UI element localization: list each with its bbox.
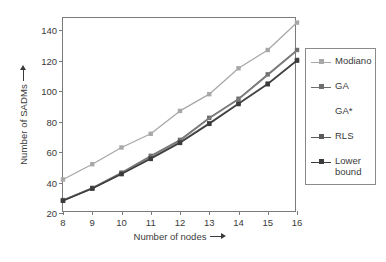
data-point-marker: [207, 122, 211, 126]
y-tick-label: 40: [46, 177, 57, 188]
legend-item-label: GA: [335, 80, 349, 91]
data-point-marker: [295, 20, 299, 24]
legend-item-ga[interactable]: GA: [306, 80, 375, 105]
y-tick-label: 20: [46, 208, 57, 219]
legend-item-label: Modiano: [335, 55, 371, 66]
x-tick-mark: [297, 211, 298, 215]
data-point-marker: [178, 109, 182, 113]
legend-key-icon: [311, 156, 331, 168]
data-point-marker: [295, 58, 299, 62]
x-tick-label: 9: [90, 217, 95, 228]
series-line: [63, 51, 297, 200]
x-tick-label: 10: [116, 217, 127, 228]
y-axis-title: Number of SADMs: [14, 40, 32, 190]
data-point-marker: [90, 162, 94, 166]
chart-figure: Number of SADMs 20406080100120140 891011…: [0, 0, 386, 262]
data-point-marker: [119, 145, 123, 149]
legend-item-label: Lowerbound: [335, 155, 361, 177]
data-point-marker: [90, 186, 94, 190]
data-point-marker: [207, 92, 211, 96]
legend-key-icon: [311, 131, 331, 143]
x-tick-label: 14: [233, 217, 244, 228]
series-line: [63, 61, 297, 201]
data-point-marker: [236, 66, 240, 70]
legend-item-rls[interactable]: RLS: [306, 130, 375, 155]
series-ga: [61, 48, 299, 202]
legend-item-ga-[interactable]: GA*: [306, 105, 375, 130]
right-arrow-icon: [210, 233, 226, 240]
data-point-marker: [119, 172, 123, 176]
legend-item-label: GA*: [335, 105, 352, 116]
x-tick-label: 12: [175, 217, 186, 228]
legend-key-icon: [311, 56, 331, 68]
y-tick-label: 60: [46, 147, 57, 158]
y-tick-label: 100: [41, 86, 57, 97]
data-point-marker: [149, 132, 153, 136]
series-line: [63, 60, 297, 201]
data-point-marker: [61, 199, 65, 203]
x-tick-label: 11: [146, 217, 156, 228]
legend-item-modiano[interactable]: Modiano: [306, 55, 375, 80]
data-point-marker: [266, 82, 270, 86]
x-tick-label: 8: [60, 217, 65, 228]
data-point-marker: [178, 141, 182, 145]
series-layer: [63, 18, 297, 213]
x-tick-label: 15: [262, 217, 273, 228]
x-axis-title: Number of nodes: [60, 231, 300, 242]
y-tick-label: 80: [46, 116, 57, 127]
y-tick-label: 120: [41, 55, 57, 66]
data-point-marker: [266, 48, 270, 52]
series-modiano: [61, 20, 299, 181]
x-axis-title-text: Number of nodes: [134, 231, 207, 242]
x-tick-label: 13: [204, 217, 215, 228]
data-point-marker: [149, 157, 153, 161]
y-tick-label: 140: [41, 25, 57, 36]
legend-item-lower-bound[interactable]: Lowerbound: [306, 155, 375, 185]
plot-area: 20406080100120140 8910111213141516: [62, 17, 296, 212]
right-arrow-icon: [20, 65, 27, 81]
legend-item-label: RLS: [335, 130, 353, 141]
x-tick-label: 16: [292, 217, 303, 228]
legend-key-icon: [311, 81, 331, 93]
series-ga-: [63, 51, 297, 200]
data-point-marker: [61, 177, 65, 181]
series-lower-bound: [61, 58, 299, 203]
chart-legend: ModianoGAGA*RLSLowerbound: [305, 48, 376, 185]
y-axis-title-text: Number of SADMs: [18, 84, 29, 165]
data-point-marker: [236, 102, 240, 106]
series-line: [63, 23, 297, 180]
series-line: [63, 50, 297, 200]
